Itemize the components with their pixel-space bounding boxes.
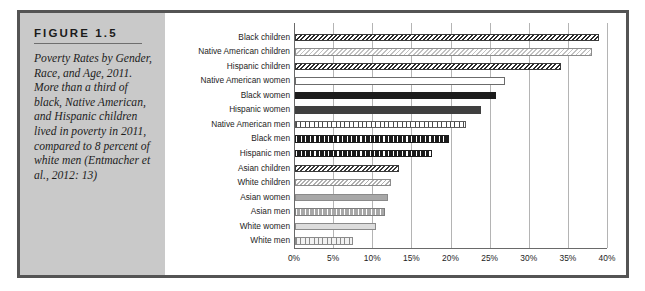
bar-category-label: Asian men bbox=[165, 206, 290, 216]
bar bbox=[295, 194, 388, 201]
bar bbox=[295, 223, 376, 230]
x-axis-tick-label: 15% bbox=[393, 253, 429, 263]
bar-category-label: Asian women bbox=[165, 192, 290, 202]
figure-caption-text: Poverty Rates by Gender, Race, and Age, … bbox=[34, 52, 153, 183]
bar-category-label: Hispanic children bbox=[165, 61, 290, 71]
bar-category-label: Native American women bbox=[165, 75, 290, 85]
bar-category-label: Hispanic women bbox=[165, 104, 290, 114]
x-axis-tick-label: 20% bbox=[433, 253, 469, 263]
x-axis-tick-label: 40% bbox=[589, 253, 625, 263]
bar-category-label: Native American children bbox=[165, 46, 290, 56]
bar bbox=[295, 77, 505, 84]
figure-number-label: FIGURE 1.5 bbox=[34, 27, 153, 39]
chart-panel: Black childrenNative American childrenHi… bbox=[165, 13, 626, 275]
bar-category-label: Hispanic men bbox=[165, 148, 290, 158]
x-axis-tick-label: 5% bbox=[315, 253, 351, 263]
x-axis-tick-label: 30% bbox=[511, 253, 547, 263]
x-axis-line bbox=[294, 248, 607, 249]
bar bbox=[295, 179, 391, 186]
figure-title-divider bbox=[34, 43, 142, 44]
bar-category-label: Black children bbox=[165, 32, 290, 42]
figure-frame: FIGURE 1.5 Poverty Rates by Gender, Race… bbox=[17, 10, 629, 278]
x-axis-tick-label: 25% bbox=[472, 253, 508, 263]
bar bbox=[295, 237, 353, 244]
bar-chart-plot: Black childrenNative American childrenHi… bbox=[165, 13, 626, 275]
bar bbox=[295, 63, 561, 70]
bar-category-label: White women bbox=[165, 221, 290, 231]
bar-category-label: Black women bbox=[165, 90, 290, 100]
bar bbox=[295, 208, 385, 215]
bar-category-label: Black men bbox=[165, 133, 290, 143]
bar bbox=[295, 121, 466, 128]
bar-category-label: Native American men bbox=[165, 119, 290, 129]
gridline-30 bbox=[529, 23, 530, 248]
bar bbox=[295, 48, 592, 55]
bar-category-label: White men bbox=[165, 235, 290, 245]
gridline-40 bbox=[607, 23, 608, 248]
bar bbox=[295, 165, 399, 172]
bar bbox=[295, 150, 432, 157]
bar-category-label: Asian children bbox=[165, 163, 290, 173]
bar bbox=[295, 92, 496, 99]
gridline-20 bbox=[451, 23, 452, 248]
bar bbox=[295, 135, 449, 142]
figure-caption-panel: FIGURE 1.5 Poverty Rates by Gender, Race… bbox=[20, 13, 165, 275]
bar bbox=[295, 106, 481, 113]
figure-root: FIGURE 1.5 Poverty Rates by Gender, Race… bbox=[0, 0, 645, 291]
x-axis-tick-label: 35% bbox=[550, 253, 586, 263]
bar bbox=[295, 34, 599, 41]
gridline-25 bbox=[490, 23, 491, 248]
bar-category-label: White children bbox=[165, 177, 290, 187]
x-axis-tick-label: 0% bbox=[276, 253, 312, 263]
x-axis-tick-label: 10% bbox=[354, 253, 390, 263]
gridline-35 bbox=[568, 23, 569, 248]
